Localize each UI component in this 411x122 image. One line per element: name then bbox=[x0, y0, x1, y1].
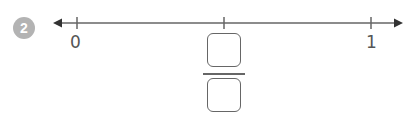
fraction-bar bbox=[203, 73, 245, 75]
numerator-input-box[interactable] bbox=[207, 33, 241, 67]
label-zero: 0 bbox=[70, 34, 81, 51]
left-arrow-icon bbox=[53, 19, 62, 28]
number-line bbox=[0, 0, 411, 122]
denominator-input-box[interactable] bbox=[207, 78, 241, 112]
label-one: 1 bbox=[366, 34, 377, 51]
right-arrow-icon bbox=[394, 19, 403, 28]
